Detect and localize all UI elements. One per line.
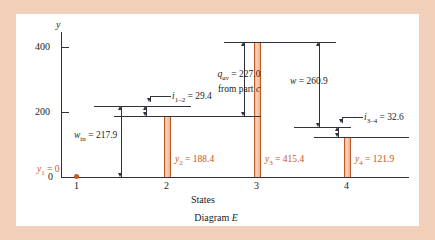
x-tick-label-3: 3 [254,180,259,191]
level-line-188 [114,116,261,117]
figure-caption: Diagram E [156,212,276,223]
figure-caption-text: Diagram E [194,212,238,223]
qav-arrow-head-bottom [241,112,245,116]
y-tick-200 [61,112,69,113]
level-line-154 [294,127,351,128]
bar-label-state-3: y3 = 415.4 [265,154,304,169]
w-in-arrow-shaft [121,106,122,177]
x-tick-label-4: 4 [344,180,349,191]
bar-state-1 [74,174,79,179]
annotation-w: w = 260.9 [290,76,328,87]
qav-arrow-head-top [241,42,245,46]
figure-frame: y 400 200 0 1 2 3 4 States y1 = 0 y2 = 1… [0,0,435,240]
annotation-w-in: win = 217.9 [74,130,117,145]
bar-label-state-2: y2 = 188.4 [175,154,214,169]
x-axis-title: States [191,194,215,205]
plot-canvas: y 400 200 0 1 2 3 4 States y1 = 0 y2 = 1… [16,14,419,226]
i12-arrow-head-bottom [143,112,147,116]
w-arrow-head-bottom [316,123,320,127]
i12-arrow-head-top [143,106,147,110]
annotation-q-av-line1: qav = 227.0 [218,69,261,79]
i12-leader-head [147,98,151,102]
x-tick-label-2: 2 [164,180,169,191]
y-axis-line [61,32,62,177]
y-tick-400 [61,47,69,48]
i34-leader-head [339,119,343,123]
y-axis-label: y [56,19,60,30]
x-axis-line [61,177,409,178]
bar-state-4 [344,137,351,177]
annotation-q-av: qav = 227.0 from part c [200,69,278,95]
i12-leader-elbow [150,96,171,102]
i34-leader-elbow [342,117,363,123]
bar-label-state-1: y1 = 0 [37,164,60,179]
level-line-121 [314,137,409,138]
bar-state-3 [254,42,261,177]
annotation-i-3-4: i3–4 = 32.6 [364,112,404,127]
w-arrow-head-top [316,42,320,46]
x-tick-label-1: 1 [74,180,79,191]
w-in-arrow-head-top [118,106,122,110]
annotation-q-av-line2: from part c [218,84,260,94]
bar-state-2 [164,116,171,177]
w-in-arrow-head-bottom [118,173,122,177]
y-tick-label-400: 400 [35,41,50,52]
i34-inner-shaft [338,127,339,137]
y-tick-label-200: 200 [35,106,50,117]
bar-label-state-4: y4 = 121.9 [355,154,394,169]
